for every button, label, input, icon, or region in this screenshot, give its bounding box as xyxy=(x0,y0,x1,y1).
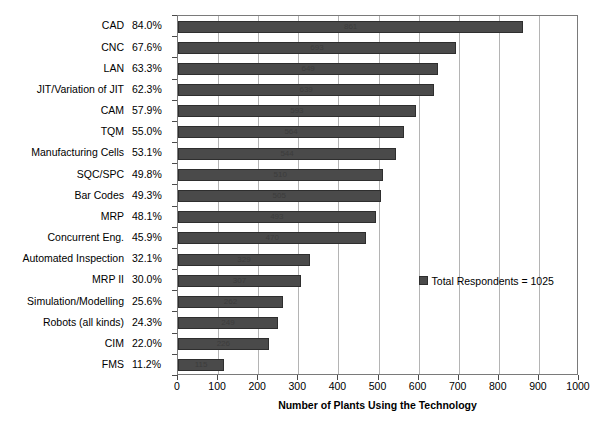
x-axis-tick-labels: 01002003004005006007008009001000 xyxy=(177,381,578,395)
x-axis-title: Number of Plants Using the Technology xyxy=(177,400,578,411)
bar[interactable]: 115 xyxy=(178,359,224,371)
bar-value-label: 493 xyxy=(270,213,283,221)
category-percent: 48.1% xyxy=(132,211,170,222)
bar-slot: 249 xyxy=(178,317,579,329)
bar[interactable]: 510 xyxy=(178,169,383,181)
plot-area: 8616936496395935645445105054934703293072… xyxy=(177,15,578,375)
category-name: FMS xyxy=(102,359,124,370)
bar-value-label: 262 xyxy=(224,298,237,306)
category-percent: 67.6% xyxy=(132,42,170,53)
bar[interactable]: 470 xyxy=(178,232,366,244)
bar[interactable]: 226 xyxy=(178,338,269,350)
bar-slot: 505 xyxy=(178,190,579,202)
category-axis-tick xyxy=(172,36,177,37)
category-percent: 53.1% xyxy=(132,147,170,158)
category-row: Bar Codes49.3% xyxy=(0,184,174,205)
category-row: Automated Inspection32.1% xyxy=(0,248,174,269)
bar-slot: 510 xyxy=(178,169,579,181)
category-percent: 22.0% xyxy=(132,338,170,349)
category-row: Concurrent Eng.45.9% xyxy=(0,227,174,248)
bar[interactable]: 505 xyxy=(178,190,381,202)
category-name: Manufacturing Cells xyxy=(31,147,124,158)
bar-slot: 649 xyxy=(178,63,579,75)
x-axis-tick-label: 400 xyxy=(329,381,347,392)
category-name: MRP xyxy=(101,211,124,222)
category-row: MRP48.1% xyxy=(0,206,174,227)
category-percent: 57.9% xyxy=(132,105,170,116)
category-row: TQM55.0% xyxy=(0,121,174,142)
category-axis-tick xyxy=(172,269,177,270)
bar-value-label: 249 xyxy=(221,319,234,327)
bar[interactable]: 307 xyxy=(178,275,301,287)
bar[interactable]: 262 xyxy=(178,296,283,308)
category-name: CIM xyxy=(105,338,124,349)
category-axis-tick xyxy=(172,354,177,355)
category-row: CIM22.0% xyxy=(0,333,174,354)
bar-value-label: 226 xyxy=(217,340,230,348)
category-row: JIT/Variation of JIT62.3% xyxy=(0,79,174,100)
bar-value-label: 639 xyxy=(299,86,312,94)
bar[interactable]: 649 xyxy=(178,63,438,75)
bar-value-label: 564 xyxy=(284,128,297,136)
bar-value-label: 505 xyxy=(273,192,286,200)
legend-label: Total Respondents = 1025 xyxy=(432,276,554,287)
bar-value-label: 510 xyxy=(274,171,287,179)
bar[interactable]: 639 xyxy=(178,84,434,96)
category-name: CAD xyxy=(102,20,124,31)
category-row: FMS11.2% xyxy=(0,354,174,375)
category-row: CNC67.6% xyxy=(0,36,174,57)
bar-slot: 329 xyxy=(178,254,579,266)
category-axis-tick xyxy=(172,100,177,101)
category-name: Automated Inspection xyxy=(22,253,124,264)
category-name: SQC/SPC xyxy=(77,169,124,180)
bar[interactable]: 593 xyxy=(178,105,416,117)
category-name: CAM xyxy=(101,105,124,116)
bar[interactable]: 564 xyxy=(178,126,404,138)
category-name: JIT/Variation of JIT xyxy=(37,84,124,95)
bar-slot: 861 xyxy=(178,21,579,33)
bar[interactable]: 861 xyxy=(178,21,523,33)
category-name: Robots (all kinds) xyxy=(43,317,124,328)
bar-value-label: 329 xyxy=(237,256,250,264)
category-percent: 62.3% xyxy=(132,84,170,95)
category-row: CAM57.9% xyxy=(0,100,174,121)
bar-series: 8616936496395935645445105054934703293072… xyxy=(178,16,577,374)
category-axis-tick xyxy=(172,333,177,334)
category-row: Simulation/Modelling25.6% xyxy=(0,290,174,311)
bar-value-label: 307 xyxy=(233,277,246,285)
category-name: Bar Codes xyxy=(74,190,124,201)
category-axis-tick xyxy=(172,248,177,249)
bar-slot: 564 xyxy=(178,126,579,138)
bar-slot: 639 xyxy=(178,84,579,96)
bar[interactable]: 693 xyxy=(178,42,456,54)
category-axis-tick xyxy=(172,290,177,291)
category-axis-tick xyxy=(172,15,177,16)
category-axis-tick xyxy=(172,163,177,164)
category-percent: 49.8% xyxy=(132,169,170,180)
x-axis-tick-label: 800 xyxy=(489,381,507,392)
bar[interactable]: 544 xyxy=(178,148,396,160)
category-row: MRP II30.0% xyxy=(0,269,174,290)
bar[interactable]: 329 xyxy=(178,254,310,266)
category-axis-tick xyxy=(172,184,177,185)
category-axis-tick xyxy=(172,227,177,228)
category-name: LAN xyxy=(104,63,124,74)
bar[interactable]: 249 xyxy=(178,317,278,329)
category-row: SQC/SPC49.8% xyxy=(0,163,174,184)
category-name: Simulation/Modelling xyxy=(27,296,124,307)
category-percent: 30.0% xyxy=(132,274,170,285)
legend-swatch-icon xyxy=(419,276,428,285)
bar-slot: 115 xyxy=(178,359,579,371)
bar-value-label: 544 xyxy=(280,150,293,158)
category-axis-tick xyxy=(172,57,177,58)
category-percent: 24.3% xyxy=(132,317,170,328)
bar[interactable]: 493 xyxy=(178,211,376,223)
x-axis-tick-label: 600 xyxy=(409,381,427,392)
category-percent: 63.3% xyxy=(132,63,170,74)
bar-value-label: 861 xyxy=(344,23,357,31)
category-percent: 49.3% xyxy=(132,190,170,201)
bar-slot: 544 xyxy=(178,148,579,160)
bar-value-label: 115 xyxy=(195,361,208,369)
category-axis-tick xyxy=(172,311,177,312)
category-name: TQM xyxy=(101,126,124,137)
